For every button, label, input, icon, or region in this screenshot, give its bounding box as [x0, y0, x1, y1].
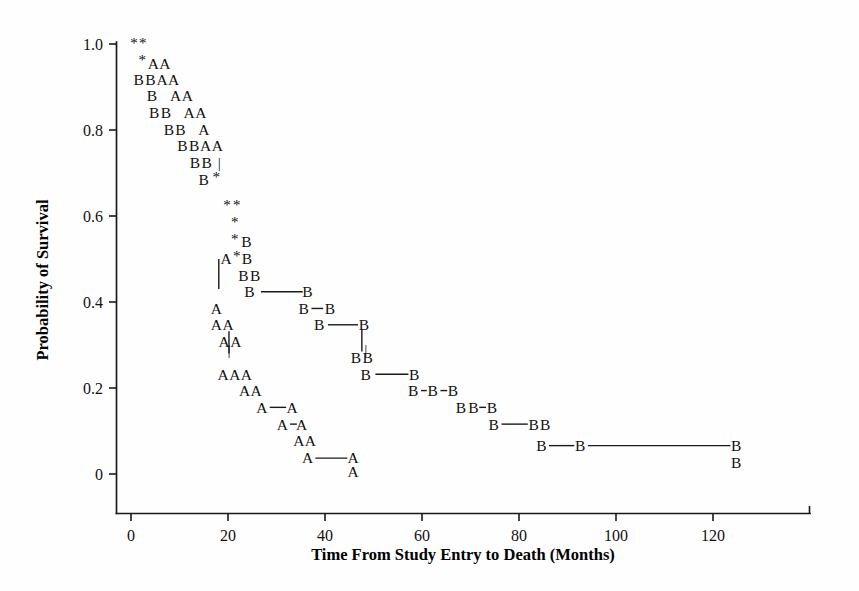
y-tick-label: 0	[95, 466, 103, 483]
marker-group-B: B	[177, 137, 187, 154]
marker-group-A: A	[168, 71, 180, 88]
marker-group-B: B	[427, 382, 437, 399]
marker-group-B: B	[409, 366, 419, 383]
marker-group-A: A	[293, 432, 305, 449]
marker-group-B: B	[731, 437, 741, 454]
marker-group-A: A	[195, 104, 207, 121]
marker-group-B: B	[199, 171, 209, 188]
marker-censored: *	[130, 35, 138, 51]
marker-group-A: A	[222, 316, 234, 333]
marker-group-A: A	[170, 87, 182, 104]
marker-censored: *	[223, 197, 231, 213]
y-tick-label: 0.2	[83, 380, 103, 397]
marker-group-B: B	[244, 283, 254, 300]
marker-group-B: B	[134, 71, 144, 88]
marker-group-A: A	[302, 449, 314, 466]
marker-group-A: A	[305, 432, 317, 449]
x-tick-label: 40	[317, 527, 333, 544]
marker-censored: *	[231, 214, 239, 230]
figure-container: 1.00.80.60.40.20 020406080100120 ***AABB…	[0, 0, 859, 591]
marker-group-A: A	[212, 137, 224, 154]
marker-censored: *	[231, 231, 239, 247]
marker-group-B: B	[175, 121, 185, 138]
marker-group-B: B	[161, 104, 171, 121]
marker-group-A: A	[241, 366, 253, 383]
marker-censored: *	[233, 248, 241, 264]
x-tick-group	[131, 514, 713, 522]
marker-group-A: A	[200, 137, 212, 154]
marker-group-B: B	[250, 267, 260, 284]
x-tick-label: 80	[511, 527, 527, 544]
y-tick-label: 0.8	[83, 122, 103, 139]
y-tick-label-group: 1.00.80.60.40.20	[83, 36, 103, 483]
marker-group-A: A	[184, 104, 196, 121]
marker-group-B: B	[201, 154, 211, 171]
marker-group-B: B	[540, 416, 550, 433]
marker-group-A: A	[218, 366, 230, 383]
marker-group-A: A	[229, 366, 241, 383]
y-tick-label: 0.4	[83, 294, 103, 311]
marker-group-A: A	[230, 333, 242, 350]
marker-censored: *	[138, 52, 146, 68]
marker-group-A: A	[220, 250, 232, 267]
survival-plot: 1.00.80.60.40.20 020406080100120 ***AABB…	[0, 0, 859, 591]
marker-group-B: B	[359, 316, 369, 333]
marker-group-A: A	[148, 55, 160, 72]
marker-censored: *	[139, 35, 147, 51]
y-tick-group	[109, 44, 117, 474]
x-tick-label: 20	[220, 527, 236, 544]
marker-group-A: A	[348, 463, 360, 480]
marker-group-A: A	[159, 55, 171, 72]
marker-group-B: B	[302, 283, 312, 300]
marker-group-B: B	[528, 416, 538, 433]
marker-group-B: B	[149, 104, 159, 121]
marker-group-B: B	[456, 399, 466, 416]
x-tick-label: 120	[701, 527, 725, 544]
x-tick-label-group: 020406080100120	[127, 527, 725, 544]
marker-group-A: A	[198, 121, 210, 138]
marker-group-B: B	[468, 399, 478, 416]
data-marker-group: ***AABBAABAABBAABBABBAABB|B*****BA*BBBBB…	[130, 35, 741, 480]
marker-group-B: B	[298, 300, 308, 317]
marker-group-A: A	[239, 382, 251, 399]
marker-group-B: B	[448, 382, 458, 399]
marker-group-A: A	[256, 399, 268, 416]
marker-group-B: B	[164, 121, 174, 138]
marker-group-B: B	[147, 87, 157, 104]
marker-group-B: B	[363, 349, 373, 366]
marker-group-A: A	[182, 87, 194, 104]
marker-group-B: B	[242, 250, 252, 267]
marker-group-B: B	[189, 137, 199, 154]
marker-group-B: B	[408, 382, 418, 399]
marker-group-B: B	[241, 233, 251, 250]
marker-group-B: B	[536, 437, 546, 454]
marker-group-B: B	[351, 349, 361, 366]
marker-group-A: A	[156, 71, 168, 88]
marker-group-B: B	[314, 316, 324, 333]
y-tick-label: 0.6	[83, 208, 103, 225]
marker-group-A: A	[286, 399, 298, 416]
marker-group-B: B	[361, 366, 371, 383]
y-tick-label: 1.0	[83, 36, 103, 53]
marker-group-B: B	[238, 267, 248, 284]
marker-censored: *	[213, 169, 221, 185]
marker-group-B: B	[325, 300, 335, 317]
marker-group-B: B	[145, 71, 155, 88]
x-axis-title: Time From Study Entry to Death (Months)	[311, 545, 615, 564]
marker-censored: *	[233, 197, 241, 213]
marker-group-B: B	[487, 399, 497, 416]
x-tick-label: 0	[127, 527, 135, 544]
marker-tick: |	[227, 341, 230, 358]
marker-group-B: B	[190, 154, 200, 171]
marker-group-B: B	[489, 416, 499, 433]
marker-group-A: A	[277, 416, 289, 433]
marker-group-B: B	[731, 454, 741, 471]
marker-group-A: A	[211, 300, 223, 317]
marker-group-A: A	[211, 316, 223, 333]
marker-group-A: A	[296, 416, 308, 433]
marker-group-B: B	[575, 437, 585, 454]
x-tick-label: 60	[414, 527, 430, 544]
x-tick-label: 100	[604, 527, 628, 544]
y-axis-title: Probability of Survival	[33, 199, 52, 360]
marker-group-A: A	[251, 382, 263, 399]
